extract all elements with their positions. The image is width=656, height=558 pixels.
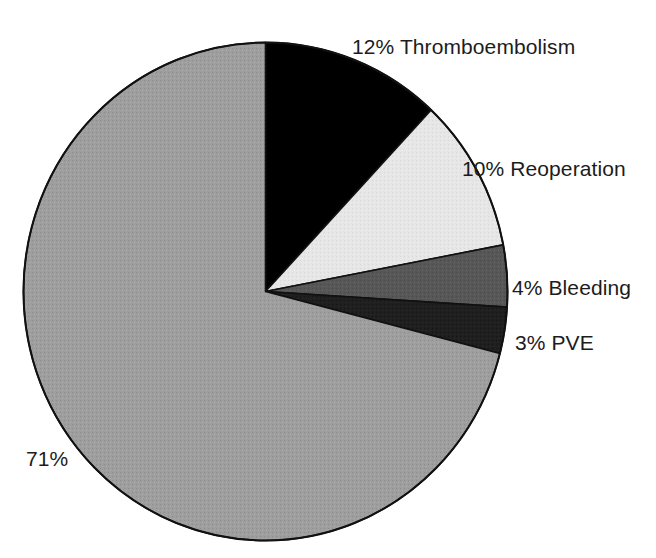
pie-chart-figure: 12% Thromboembolism 10% Reoperation 4% B…	[0, 0, 656, 558]
pie-label-pve: 3% PVE	[515, 332, 594, 353]
pie-label-bleeding: 4% Bleeding	[512, 277, 631, 298]
pie-slices-group	[24, 43, 508, 541]
pie-label-thromboembolism: 12% Thromboembolism	[352, 36, 575, 57]
pie-label-reoperation: 10% Reoperation	[462, 158, 626, 179]
pie-label-remainder: 71%	[26, 448, 68, 469]
